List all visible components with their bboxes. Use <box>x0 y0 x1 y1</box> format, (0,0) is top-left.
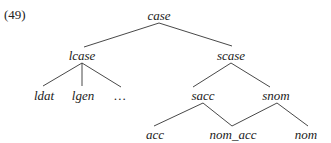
tree-edges <box>43 23 308 126</box>
edge-sacc-nom_acc <box>203 103 232 126</box>
edge-snom-nom_acc <box>232 103 277 126</box>
edge-case-lcase <box>84 23 159 47</box>
case-hierarchy-tree: (49) caselcasescaseldatlgen…saccsnomaccn… <box>0 0 331 143</box>
node-scase: scase <box>217 48 245 63</box>
edge-snom-nom <box>277 103 308 126</box>
edge-lcase-ellipsis <box>82 63 121 87</box>
node-nom_acc: nom_acc <box>210 127 257 142</box>
node-nom: nom <box>295 127 317 142</box>
edge-scase-snom <box>231 63 270 87</box>
node-lcase: lcase <box>69 48 96 63</box>
node-acc: acc <box>146 127 164 142</box>
node-ldat: ldat <box>34 88 55 103</box>
node-sacc: sacc <box>191 88 214 103</box>
edge-lcase-ldat <box>43 63 82 86</box>
node-lgen: lgen <box>72 88 94 103</box>
edge-sacc-acc <box>154 103 203 126</box>
node-ellipsis: … <box>114 88 126 103</box>
node-snom: snom <box>262 88 289 103</box>
node-case: case <box>147 8 170 23</box>
example-number: (49) <box>4 7 26 22</box>
edge-scase-sacc <box>193 63 231 87</box>
edge-case-scase <box>159 23 232 46</box>
